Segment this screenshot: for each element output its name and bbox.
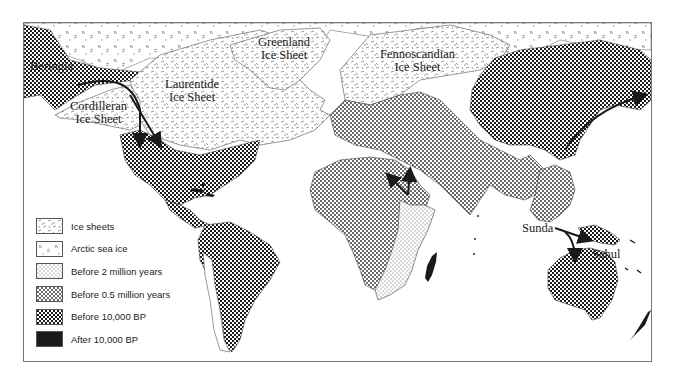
legend-item-before-2-million-years: Before 2 million years xyxy=(36,260,170,283)
legend-item-after-10000-bp: After 10,000 BP xyxy=(36,328,170,351)
label-greenland-ice-sheet: Greenland Ice Sheet xyxy=(258,36,310,62)
map-legend: Ice sheets Arctic sea ice Before 2 milli… xyxy=(36,215,170,351)
new-guinea xyxy=(578,225,620,245)
legend-label: After 10,000 BP xyxy=(71,334,138,345)
central-america-region xyxy=(165,200,210,228)
legend-label: Before 0.5 million years xyxy=(71,289,170,300)
label-cordilleran-ice-sheet: Cordilleran Ice Sheet xyxy=(70,100,127,126)
arctic-sea-ice-swatch-icon xyxy=(36,241,63,257)
legend-label: Before 2 million years xyxy=(71,266,162,277)
solid-black-swatch-icon xyxy=(36,331,63,347)
legend-item-ice-sheets: Ice sheets xyxy=(36,215,170,238)
legend-label: Ice sheets xyxy=(71,221,114,232)
legend-label: Arctic sea ice xyxy=(71,243,128,254)
dots-swatch-icon xyxy=(36,286,63,302)
label-cordilleran-line-2: Ice Sheet xyxy=(70,113,127,126)
legend-item-arctic-sea-ice: Arctic sea ice xyxy=(36,238,170,261)
fine-dots-swatch-icon xyxy=(36,263,63,279)
legend-item-before-10000-bp: Before 10,000 BP xyxy=(36,305,170,328)
checker-swatch-icon xyxy=(36,309,63,325)
label-laurentide-line-2: Ice Sheet xyxy=(165,91,219,104)
label-sahul: Sahul xyxy=(592,248,620,261)
label-beringia: Beringia xyxy=(30,60,73,73)
label-fennoscandian-ice-sheet: Fennoscandian Ice Sheet xyxy=(380,48,455,74)
legend-item-before-0-5-million-years: Before 0.5 million years xyxy=(36,283,170,306)
label-sunda: Sunda xyxy=(522,222,553,235)
label-fennoscandian-line-2: Ice Sheet xyxy=(380,61,455,74)
new-zealand xyxy=(630,310,651,340)
legend-label: Before 10,000 BP xyxy=(71,311,146,322)
ice-sheets-swatch-icon xyxy=(36,218,63,234)
siberia-east-asia-region xyxy=(470,40,651,160)
madagascar xyxy=(425,252,437,282)
label-greenland-line-2: Ice Sheet xyxy=(258,49,310,62)
label-laurentide-ice-sheet: Laurentide Ice Sheet xyxy=(165,78,219,104)
